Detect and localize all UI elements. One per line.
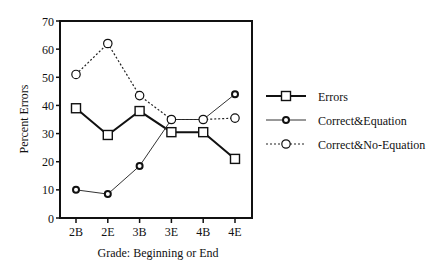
y-tick-label: 20 xyxy=(42,155,54,169)
square-marker-icon xyxy=(199,128,208,137)
x-tick-label: 3E xyxy=(165,225,178,239)
square-marker-icon xyxy=(167,128,176,137)
diamond-marker-icon xyxy=(283,117,289,123)
x-axis-label: Grade: Beginning or End xyxy=(98,246,219,260)
x-tick-label: 2E xyxy=(101,225,114,239)
square-marker-icon xyxy=(72,104,81,113)
square-marker-icon xyxy=(282,92,291,101)
diamond-marker-icon xyxy=(105,191,111,197)
legend-label: Correct&Equation xyxy=(318,114,407,128)
y-axis-label: Percent Errors xyxy=(17,84,31,153)
legend-label: Errors xyxy=(318,90,348,104)
x-tick-label: 4B xyxy=(196,225,210,239)
x-tick-label: 2B xyxy=(69,225,83,239)
legend-item: Errors xyxy=(266,90,348,104)
diamond-marker-icon xyxy=(73,187,79,193)
markers-errors xyxy=(72,104,240,164)
circle-marker-icon xyxy=(199,115,207,123)
x-tick-label: 3B xyxy=(133,225,147,239)
y-tick-label: 0 xyxy=(48,212,54,226)
diamond-marker-icon xyxy=(137,163,143,169)
circle-marker-icon xyxy=(135,91,143,99)
x-tick-label: 4E xyxy=(228,225,241,239)
y-tick-label: 10 xyxy=(42,183,54,197)
legend-item: Correct&Equation xyxy=(266,114,407,128)
diamond-marker-icon xyxy=(232,91,238,97)
circle-marker-icon xyxy=(167,115,175,123)
y-tick-label: 70 xyxy=(42,15,54,29)
series-errors xyxy=(76,108,235,159)
line-chart: 0102030405060702B2E3B3E4B4E ErrorsCorrec… xyxy=(0,0,435,271)
series-line xyxy=(76,94,235,194)
y-tick-label: 50 xyxy=(42,71,54,85)
circle-marker-icon xyxy=(282,140,290,148)
series-line xyxy=(76,44,235,120)
series-correct-equation xyxy=(76,94,235,194)
square-marker-icon xyxy=(231,154,240,163)
square-marker-icon xyxy=(135,107,144,116)
axes: 0102030405060702B2E3B3E4B4E xyxy=(42,15,252,240)
square-marker-icon xyxy=(103,130,112,139)
legend-item: Correct&No-Equation xyxy=(266,138,425,152)
series-line xyxy=(76,108,235,159)
circle-marker-icon xyxy=(231,114,239,122)
circle-marker-icon xyxy=(104,39,112,47)
legend-label: Correct&No-Equation xyxy=(318,138,425,152)
circle-marker-icon xyxy=(72,70,80,78)
legend: ErrorsCorrect&EquationCorrect&No-Equatio… xyxy=(266,90,425,152)
series-group xyxy=(72,39,240,197)
series-correct-no-equation xyxy=(76,44,235,120)
y-tick-label: 30 xyxy=(42,127,54,141)
y-tick-label: 40 xyxy=(42,99,54,113)
y-tick-label: 60 xyxy=(42,43,54,57)
